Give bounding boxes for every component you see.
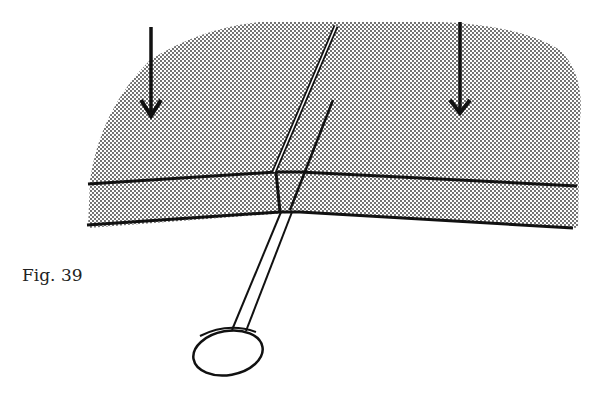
pin-shaft-lower-b (246, 212, 292, 331)
figure-caption: Fig. 39 (22, 265, 83, 285)
fabric-mass (88, 22, 581, 228)
pin-head-icon (190, 325, 267, 380)
pin-shaft-lower-a (232, 212, 281, 330)
pin-through-fabric-diagram (0, 0, 595, 398)
